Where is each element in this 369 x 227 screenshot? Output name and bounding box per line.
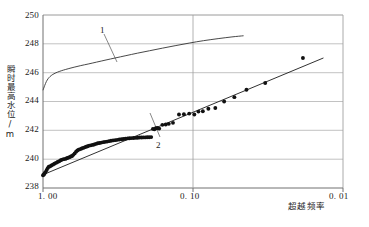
data-point bbox=[301, 56, 305, 60]
annotation-leader-lines bbox=[104, 34, 160, 137]
plot-area bbox=[0, 0, 369, 227]
data-point bbox=[192, 113, 196, 117]
data-point bbox=[149, 135, 153, 139]
data-point bbox=[177, 113, 181, 117]
data-point bbox=[232, 95, 236, 99]
axis-frame bbox=[43, 15, 343, 192]
series-group bbox=[41, 36, 323, 178]
data-point bbox=[157, 127, 161, 131]
data-point bbox=[187, 112, 191, 116]
data-point bbox=[222, 100, 226, 104]
chart-figure: 瞬时最高水位/m 250 248 246 244 242 240 238 1. … bbox=[0, 0, 369, 227]
data-point bbox=[182, 112, 186, 116]
data-point bbox=[213, 106, 217, 110]
data-point bbox=[160, 123, 164, 127]
data-point bbox=[201, 109, 205, 113]
series-fit-line-2 bbox=[43, 58, 323, 175]
data-point bbox=[171, 121, 175, 125]
data-point bbox=[263, 81, 267, 85]
data-point bbox=[245, 88, 249, 92]
data-point bbox=[206, 107, 210, 111]
data-point bbox=[196, 110, 200, 114]
data-point bbox=[167, 122, 171, 126]
